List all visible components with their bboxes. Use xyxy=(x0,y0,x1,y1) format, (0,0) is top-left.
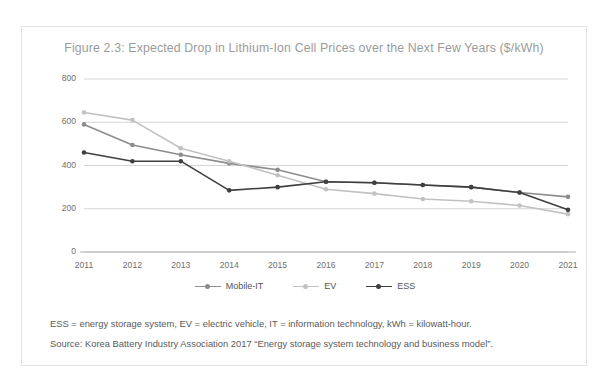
series-data-point xyxy=(421,183,426,188)
series-data-point xyxy=(130,159,135,164)
y-axis-tick-label: 400 xyxy=(42,160,76,170)
series-data-point xyxy=(227,188,232,193)
series-data-point xyxy=(566,208,571,213)
legend-item-label: EV xyxy=(324,281,336,291)
x-axis-tick-label: 2015 xyxy=(255,260,301,270)
figure-notes: ESS = energy storage system, EV = electr… xyxy=(50,314,560,354)
x-axis-tick-label: 2021 xyxy=(545,260,591,270)
y-axis-tick-label: 200 xyxy=(42,203,76,213)
series-data-point xyxy=(517,203,522,208)
x-axis-tick-label: 2014 xyxy=(206,260,252,270)
series-data-point xyxy=(372,181,377,186)
series-data-point xyxy=(324,187,329,192)
y-axis-tick-label: 0 xyxy=(42,246,76,256)
legend-item-label: ESS xyxy=(397,281,415,291)
series-data-point xyxy=(469,199,474,204)
note-abbreviations: ESS = energy storage system, EV = electr… xyxy=(50,314,560,334)
series-data-point xyxy=(275,173,280,178)
series-data-point xyxy=(421,197,426,202)
x-axis-tick-label: 2017 xyxy=(351,260,397,270)
legend-item-label: Mobile-IT xyxy=(226,281,264,291)
y-axis-tick-label: 600 xyxy=(42,116,76,126)
series-data-point xyxy=(179,146,184,151)
x-axis-tick-label: 2018 xyxy=(400,260,446,270)
legend-item[interactable]: EV xyxy=(293,281,336,291)
series-data-point xyxy=(566,212,571,217)
x-axis-tick-label: 2013 xyxy=(158,260,204,270)
series-data-point xyxy=(275,185,280,190)
x-axis-tick-label: 2012 xyxy=(109,260,155,270)
series-data-point xyxy=(275,168,280,173)
legend-swatch-icon xyxy=(293,282,319,291)
series-data-point xyxy=(372,191,377,196)
series-data-point xyxy=(82,150,87,155)
x-axis-tick-label: 2019 xyxy=(448,260,494,270)
series-data-point xyxy=(82,110,87,115)
series-line xyxy=(84,113,568,215)
figure-card: Figure 2.3: Expected Drop in Lithium-Ion… xyxy=(21,26,587,366)
y-axis-tick-label: 800 xyxy=(42,73,76,83)
series-data-point xyxy=(517,190,522,195)
series-data-point xyxy=(130,118,135,123)
series-data-point xyxy=(130,143,135,148)
series-data-point xyxy=(82,122,87,127)
series-data-point xyxy=(324,179,329,184)
series-data-point xyxy=(469,185,474,190)
series-data-point xyxy=(179,159,184,164)
series-data-point xyxy=(179,152,184,157)
chart-legend: Mobile-ITEVESS xyxy=(22,281,588,291)
series-data-point xyxy=(227,159,232,164)
x-axis-tick-label: 2016 xyxy=(303,260,349,270)
x-axis-tick-label: 2020 xyxy=(497,260,543,270)
legend-item[interactable]: ESS xyxy=(366,281,415,291)
series-data-point xyxy=(566,195,571,200)
x-axis-tick-label: 2011 xyxy=(61,260,107,270)
note-source: Source: Korea Battery Industry Associati… xyxy=(50,334,560,354)
legend-swatch-icon xyxy=(366,282,392,291)
legend-swatch-icon xyxy=(195,282,221,291)
legend-item[interactable]: Mobile-IT xyxy=(195,281,264,291)
